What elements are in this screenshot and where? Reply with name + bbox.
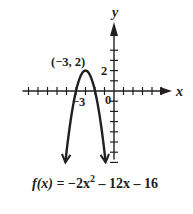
x-axis-label: x [175, 84, 183, 99]
axes [23, 22, 173, 159]
curve-arrowheads [62, 154, 109, 162]
parabola-curve [65, 71, 105, 163]
x-tick-label-neg3: −3 [72, 95, 85, 109]
axis-ticks [29, 50, 162, 162]
equation-lhs: f(x) = [32, 176, 68, 192]
equation-quadratic-term: −2x [68, 176, 90, 191]
y-tick-label-2: 2 [101, 64, 107, 78]
vertex-label: (−3, 2) [51, 55, 85, 69]
function-equation: f(x) = −2x2 – 12x – 16 [32, 173, 158, 192]
parabola-graph: y x (−3, 2) 2 −3 0 f(x) = −2x2 – 12x – 1… [0, 0, 193, 214]
equation-rest: – 12x – 16 [95, 176, 158, 191]
y-axis-label: y [110, 5, 119, 20]
origin-label: 0 [105, 93, 111, 107]
